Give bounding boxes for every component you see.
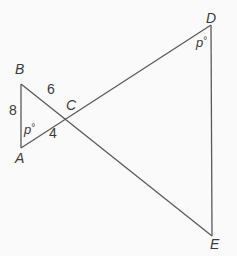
degree-symbol-a: ° <box>31 122 35 133</box>
length-label-ac: 4 <box>49 126 57 140</box>
vertex-label-e: E <box>210 237 219 251</box>
vertex-label-c: C <box>66 98 76 112</box>
angle-label-a: p° <box>24 123 35 136</box>
angle-label-d: p° <box>196 36 207 49</box>
geometry-diagram: B A C D E 8 6 4 p° p° <box>0 0 237 256</box>
length-label-bc: 6 <box>47 82 55 96</box>
degree-symbol-d: ° <box>203 35 207 46</box>
segment-de <box>211 25 212 236</box>
length-label-ab: 8 <box>9 103 17 117</box>
vertex-label-d: D <box>206 11 216 25</box>
vertex-label-b: B <box>15 62 24 76</box>
vertex-label-a: A <box>15 151 24 165</box>
segment-be <box>21 84 212 236</box>
